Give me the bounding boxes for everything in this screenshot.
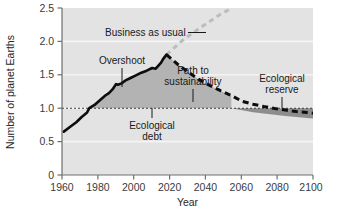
x-axis-ticks [62, 175, 313, 180]
y-tick-label-2-0: 2.0 [39, 35, 54, 47]
ecological-footprint-chart: 2.5 2.0 1.5 1.0 0.5 0 1960 1980 2000 202… [0, 0, 337, 215]
annotation-path-to-sustainability-label-line1: Path to [177, 65, 209, 76]
y-tick-label-1-0: 1.0 [39, 102, 54, 114]
y-tick-label-2-5: 2.5 [39, 2, 54, 14]
annotation-ecological-reserve-label-line1: Ecological [259, 73, 305, 84]
x-axis-title: Year [177, 196, 199, 208]
annotation-ecological-debt-label-line2: debt [142, 131, 162, 142]
x-tick-label-2040: 2040 [194, 181, 218, 193]
chart-figure: 2.5 2.0 1.5 1.0 0.5 0 1960 1980 2000 202… [0, 0, 337, 215]
annotation-ecological-reserve-label-line2: reserve [265, 84, 299, 95]
x-tick-label-2100: 2100 [299, 181, 323, 193]
x-tick-label-1960: 1960 [50, 181, 74, 193]
x-tick-label-1980: 1980 [86, 181, 110, 193]
y-tick-label-1-5: 1.5 [39, 68, 54, 80]
annotation-overshoot-label: Overshoot [99, 55, 145, 66]
annotation-business-as-usual-label: Business as usual [105, 27, 186, 38]
y-tick-label-0-5: 0.5 [39, 135, 54, 147]
y-axis-title: Number of planet Earths [4, 35, 16, 149]
x-tick-label-2020: 2020 [158, 181, 182, 193]
x-tick-label-2060: 2060 [230, 181, 254, 193]
x-tick-label-2000: 2000 [122, 181, 146, 193]
y-tick-label-0: 0 [48, 169, 54, 181]
annotation-ecological-debt-label-line1: Ecological [129, 120, 175, 131]
x-tick-label-2080: 2080 [265, 181, 289, 193]
y-axis-ticks [58, 8, 63, 175]
annotation-path-to-sustainability-label-line2: sustainability [164, 76, 221, 87]
